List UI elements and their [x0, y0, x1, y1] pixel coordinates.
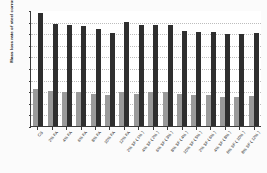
x-tick-label: CS — [37, 130, 45, 138]
bar-dark — [168, 25, 173, 126]
bar-group — [204, 11, 218, 126]
bar-dark — [53, 24, 58, 126]
bar-group — [31, 11, 45, 126]
bar-group — [117, 11, 131, 126]
x-tick-label: 4% FA — [62, 130, 74, 143]
bar-group — [160, 11, 174, 126]
bar-series-container — [31, 11, 261, 126]
bar-group — [218, 11, 232, 126]
bar-group — [103, 11, 117, 126]
bar-dark — [81, 26, 86, 126]
bar-group — [74, 11, 88, 126]
x-tick-label: 6% FA — [76, 130, 88, 143]
bar-dark — [96, 29, 101, 126]
bar-dark — [239, 34, 244, 126]
x-tick-label: 8% FA — [90, 130, 102, 143]
bar-dark — [139, 25, 144, 126]
bar-dark — [225, 34, 230, 126]
bar-group — [175, 11, 189, 126]
bar-dark — [124, 22, 129, 126]
bar-dark — [211, 32, 216, 126]
bar-chart: Mass loss rate of steel corrosion ( % ) … — [0, 0, 267, 173]
bar-group — [132, 11, 146, 126]
bar-group — [89, 11, 103, 126]
x-tick-label: 10% FA — [103, 130, 116, 145]
bar-dark — [110, 33, 115, 126]
x-tick-label: 12% FA — [118, 130, 131, 145]
bar-dark — [182, 31, 187, 126]
bar-dark — [38, 13, 43, 126]
y-axis-title: Mass loss rate of steel corrosion ( % ) — [9, 0, 14, 79]
bar-group — [60, 11, 74, 126]
plot-area — [30, 11, 261, 127]
bar-dark — [153, 25, 158, 126]
x-tick-label: 2% FA — [47, 130, 59, 143]
bar-dark — [67, 25, 72, 126]
bar-group — [146, 11, 160, 126]
bar-dark — [254, 33, 259, 126]
bar-dark — [196, 32, 201, 126]
bar-group — [232, 11, 246, 126]
bar-group — [189, 11, 203, 126]
bar-group — [45, 11, 59, 126]
x-axis-tick-labels: CS2% FA4% FA6% FA8% FA10% FA12% FA2% SF … — [30, 130, 261, 173]
bar-group — [247, 11, 261, 126]
